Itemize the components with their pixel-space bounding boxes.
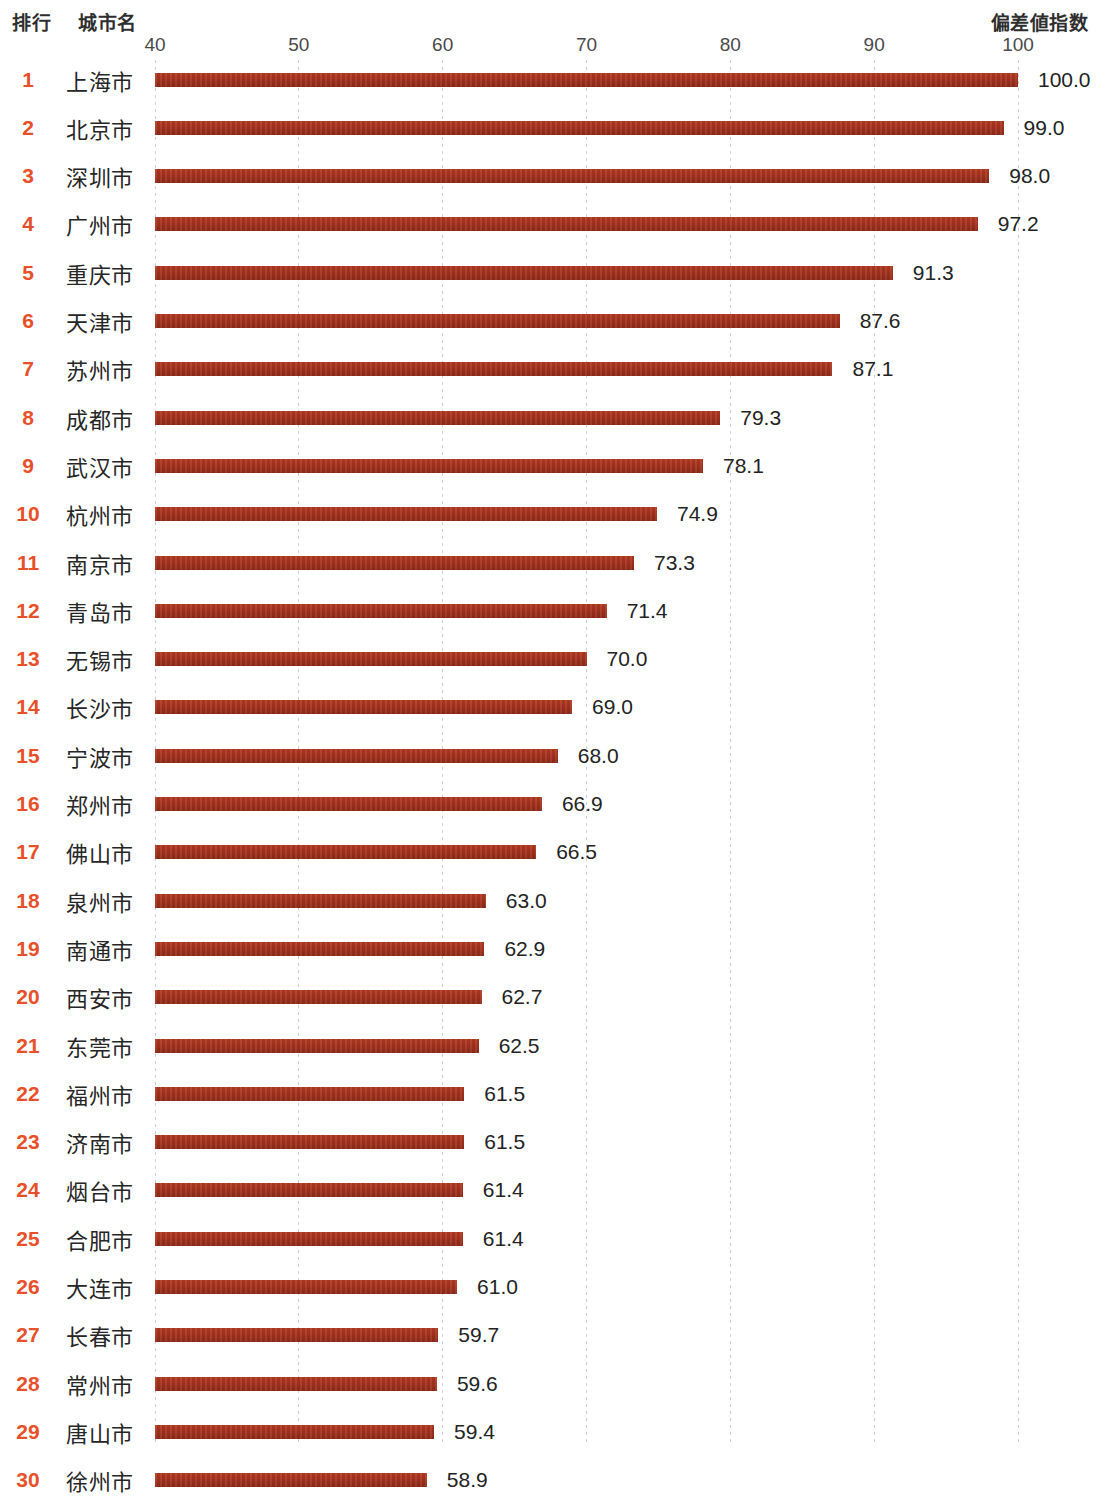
value-bar[interactable] <box>155 362 832 376</box>
value-bar[interactable] <box>155 1087 464 1101</box>
rank-number: 26 <box>0 1275 56 1299</box>
rank-number: 21 <box>0 1034 56 1058</box>
value-bar[interactable] <box>155 1377 437 1391</box>
value-bar[interactable] <box>155 217 978 231</box>
value-bar[interactable] <box>155 1039 479 1053</box>
city-name: 青岛市 <box>66 595 150 627</box>
value-bar[interactable] <box>155 942 484 956</box>
table-row[interactable]: 29唐山市59.4 <box>0 1408 1106 1456</box>
city-name: 重庆市 <box>66 257 150 289</box>
table-row[interactable]: 4广州市97.2 <box>0 200 1106 248</box>
value-bar[interactable] <box>155 604 607 618</box>
value-label: 66.5 <box>556 840 597 864</box>
table-row[interactable]: 16郑州市66.9 <box>0 780 1106 828</box>
city-name: 常州市 <box>66 1368 150 1400</box>
table-row[interactable]: 22福州市61.5 <box>0 1070 1106 1118</box>
value-label: 61.5 <box>484 1082 525 1106</box>
table-row[interactable]: 19南通市62.9 <box>0 925 1106 973</box>
table-row[interactable]: 27长春市59.7 <box>0 1311 1106 1359</box>
table-row[interactable]: 9武汉市78.1 <box>0 442 1106 490</box>
value-label: 68.0 <box>578 744 619 768</box>
value-bar[interactable] <box>155 169 989 183</box>
value-bar[interactable] <box>155 121 1004 135</box>
rank-number: 19 <box>0 937 56 961</box>
value-bar[interactable] <box>155 990 482 1004</box>
value-label: 69.0 <box>592 695 633 719</box>
value-bar[interactable] <box>155 411 720 425</box>
value-bar[interactable] <box>155 314 840 328</box>
value-bar[interactable] <box>155 894 486 908</box>
value-bar[interactable] <box>155 73 1018 87</box>
value-bar[interactable] <box>155 652 587 666</box>
value-bar[interactable] <box>155 266 893 280</box>
rank-number: 27 <box>0 1323 56 1347</box>
table-row[interactable]: 23济南市61.5 <box>0 1118 1106 1166</box>
value-bar[interactable] <box>155 845 536 859</box>
value-bar[interactable] <box>155 556 634 570</box>
table-row[interactable]: 17佛山市66.5 <box>0 828 1106 876</box>
value-bar[interactable] <box>155 1135 464 1149</box>
table-row[interactable]: 7苏州市87.1 <box>0 345 1106 393</box>
value-label: 91.3 <box>913 261 954 285</box>
value-bar[interactable] <box>155 797 542 811</box>
table-row[interactable]: 5重庆市91.3 <box>0 249 1106 297</box>
table-row[interactable]: 18泉州市63.0 <box>0 877 1106 925</box>
table-row[interactable]: 13无锡市70.0 <box>0 635 1106 683</box>
city-name: 广州市 <box>66 208 150 240</box>
table-row[interactable]: 1上海市100.0 <box>0 56 1106 104</box>
table-row[interactable]: 21东莞市62.5 <box>0 1022 1106 1070</box>
table-row[interactable]: 20西安市62.7 <box>0 973 1106 1021</box>
table-row[interactable]: 24烟台市61.4 <box>0 1166 1106 1214</box>
table-row[interactable]: 6天津市87.6 <box>0 297 1106 345</box>
city-name: 无锡市 <box>66 643 150 675</box>
value-label: 74.9 <box>677 502 718 526</box>
city-name: 南通市 <box>66 933 150 965</box>
city-name: 长沙市 <box>66 691 150 723</box>
value-bar[interactable] <box>155 700 572 714</box>
rank-number: 13 <box>0 647 56 671</box>
rank-number: 18 <box>0 889 56 913</box>
rank-number: 14 <box>0 695 56 719</box>
value-label: 87.6 <box>860 309 901 333</box>
rank-number: 29 <box>0 1420 56 1444</box>
table-row[interactable]: 30徐州市58.9 <box>0 1456 1106 1497</box>
city-name: 上海市 <box>66 64 150 96</box>
rank-number: 1 <box>0 68 56 92</box>
table-row[interactable]: 12青岛市71.4 <box>0 587 1106 635</box>
table-row[interactable]: 2北京市99.0 <box>0 104 1106 152</box>
city-name: 北京市 <box>66 112 150 144</box>
table-row[interactable]: 8成都市79.3 <box>0 394 1106 442</box>
value-bar[interactable] <box>155 459 703 473</box>
city-name: 福州市 <box>66 1078 150 1110</box>
table-row[interactable]: 14长沙市69.0 <box>0 683 1106 731</box>
value-bar[interactable] <box>155 1280 457 1294</box>
table-row[interactable]: 3深圳市98.0 <box>0 152 1106 200</box>
city-name: 南京市 <box>66 547 150 579</box>
city-name: 郑州市 <box>66 788 150 820</box>
rank-number: 15 <box>0 744 56 768</box>
city-name: 泉州市 <box>66 885 150 917</box>
value-bar[interactable] <box>155 507 657 521</box>
value-bar[interactable] <box>155 1425 434 1439</box>
value-bar[interactable] <box>155 1473 427 1487</box>
value-label: 62.9 <box>504 937 545 961</box>
rank-number: 22 <box>0 1082 56 1106</box>
city-name: 杭州市 <box>66 498 150 530</box>
table-row[interactable]: 26大连市61.0 <box>0 1263 1106 1311</box>
value-label: 100.0 <box>1038 68 1091 92</box>
value-bar[interactable] <box>155 1232 463 1246</box>
value-label: 59.6 <box>457 1372 498 1396</box>
table-row[interactable]: 10杭州市74.9 <box>0 490 1106 538</box>
table-row[interactable]: 28常州市59.6 <box>0 1360 1106 1408</box>
table-row[interactable]: 25合肥市61.4 <box>0 1215 1106 1263</box>
rank-number: 24 <box>0 1178 56 1202</box>
table-row[interactable]: 11南京市73.3 <box>0 539 1106 587</box>
value-label: 99.0 <box>1024 116 1065 140</box>
table-row[interactable]: 15宁波市68.0 <box>0 732 1106 780</box>
rank-number: 17 <box>0 840 56 864</box>
value-bar[interactable] <box>155 1328 438 1342</box>
value-bar[interactable] <box>155 749 558 763</box>
rank-number: 2 <box>0 116 56 140</box>
value-bar[interactable] <box>155 1183 463 1197</box>
